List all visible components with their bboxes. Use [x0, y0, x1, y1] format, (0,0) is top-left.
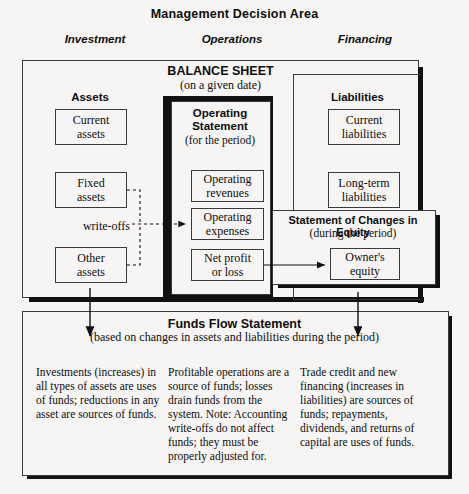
column-header-financing: Financing	[305, 33, 425, 45]
funds-flow-column-operations: Profitable operations are a source of fu…	[168, 365, 293, 463]
box-longterm-liabilities[interactable]: Long-term liabilities	[328, 172, 400, 208]
box-current-assets[interactable]: Current assets	[55, 109, 127, 145]
funds-flow-column-investment: Investments (increases) in all types of …	[36, 365, 164, 421]
operating-statement-title-line1: Operating	[193, 107, 247, 119]
funds-flow-subtitle: (based on changes in assets and liabilit…	[22, 331, 447, 345]
diagram-canvas: Management Decision Area Investment Oper…	[0, 0, 469, 494]
box-current-liabilities-line2: liabilities	[329, 127, 399, 141]
write-offs-label: write-offs	[50, 219, 130, 234]
liabilities-label: Liabilities	[300, 91, 415, 103]
box-operating-revenues-line2: revenues	[192, 186, 263, 200]
box-operating-revenues-line1: Operating	[192, 172, 263, 186]
assets-label: Assets	[30, 91, 150, 103]
box-fixed-assets-line1: Fixed	[56, 176, 126, 190]
page-title: Management Decision Area	[0, 7, 469, 21]
box-other-assets-line1: Other	[56, 251, 126, 265]
box-current-assets-line2: assets	[56, 127, 126, 141]
box-current-assets-line1: Current	[56, 113, 126, 127]
funds-flow-title: Funds Flow Statement	[22, 317, 447, 331]
equity-statement-subtitle: (during the period)	[272, 227, 434, 239]
box-longterm-liabilities-line1: Long-term	[329, 176, 399, 190]
column-header-investment: Investment	[35, 33, 155, 45]
box-fixed-assets-line2: assets	[56, 190, 126, 204]
funds-flow-column-financing: Trade credit and new financing (increase…	[300, 365, 433, 449]
box-other-assets[interactable]: Other assets	[55, 247, 127, 283]
box-net-profit-line2: or loss	[192, 265, 263, 279]
operating-statement-subtitle: (for the period)	[171, 134, 269, 146]
box-operating-expenses[interactable]: Operating expenses	[191, 208, 264, 240]
box-other-assets-line2: assets	[56, 265, 126, 279]
box-current-liabilities[interactable]: Current liabilities	[328, 109, 400, 145]
box-net-profit-line1: Net profit	[192, 251, 263, 265]
box-owners-equity[interactable]: Owner's equity	[330, 248, 400, 280]
box-operating-expenses-line2: expenses	[192, 224, 263, 238]
box-owners-equity-line2: equity	[331, 264, 399, 278]
box-fixed-assets[interactable]: Fixed assets	[55, 172, 127, 208]
box-current-liabilities-line1: Current	[329, 113, 399, 127]
operating-statement-title-line2: Statement	[192, 120, 248, 132]
box-longterm-liabilities-line2: liabilities	[329, 190, 399, 204]
operating-statement-title: Operating Statement	[171, 107, 269, 133]
box-owners-equity-line1: Owner's	[331, 250, 399, 264]
column-header-operations: Operations	[172, 33, 292, 45]
box-operating-expenses-line1: Operating	[192, 210, 263, 224]
box-operating-revenues[interactable]: Operating revenues	[191, 170, 264, 202]
box-net-profit-or-loss[interactable]: Net profit or loss	[191, 249, 264, 281]
